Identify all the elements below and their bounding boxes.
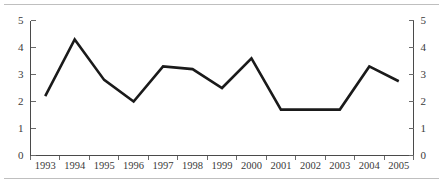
y-tick-label-left: 4 — [8, 42, 24, 53]
y-tick-label-right: 4 — [421, 42, 437, 53]
y-tick-label-left: 5 — [8, 15, 24, 26]
y-tick-label-right: 3 — [421, 69, 437, 80]
y-tick-label-left: 2 — [8, 96, 24, 107]
data-series-line — [45, 39, 399, 109]
x-tick-label: 2005 — [382, 160, 416, 171]
y-tick-label-right: 0 — [421, 150, 437, 161]
line-chart-canvas — [0, 0, 443, 184]
chart-figure: 012345 012345 19931994199519961997199819… — [0, 0, 443, 184]
tick-marks-group — [31, 21, 414, 160]
y-tick-label-left: 3 — [8, 69, 24, 80]
y-tick-label-left: 1 — [8, 123, 24, 134]
y-tick-label-left: 0 — [8, 150, 24, 161]
y-tick-label-right: 2 — [421, 96, 437, 107]
y-tick-label-right: 5 — [421, 15, 437, 26]
y-tick-label-right: 1 — [421, 123, 437, 134]
